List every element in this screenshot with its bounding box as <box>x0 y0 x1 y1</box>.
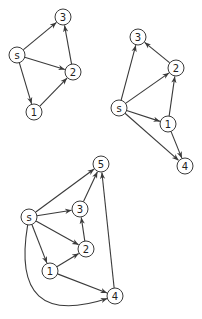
edge-4-to-5 <box>102 172 114 288</box>
edge-s-to-2 <box>126 73 169 104</box>
edge-1-to-2 <box>169 76 175 116</box>
node-label: 1 <box>31 107 37 118</box>
node-3: 3 <box>55 9 71 25</box>
nodes-layer: s32132s145s3214 <box>9 9 193 304</box>
node-3: 3 <box>130 29 146 45</box>
node-label: 1 <box>47 266 53 277</box>
node-label: s <box>116 103 121 114</box>
node-label: 2 <box>83 244 89 255</box>
node-label: s <box>14 50 19 61</box>
node-label: 4 <box>182 161 188 172</box>
node-5: 5 <box>93 156 109 172</box>
node-1: 1 <box>26 104 42 120</box>
edge-2-to-3 <box>65 25 72 64</box>
node-2: 2 <box>65 64 81 80</box>
edge-s-to-1 <box>19 63 31 104</box>
node-2: 2 <box>78 241 94 257</box>
node-4: 4 <box>107 288 123 304</box>
node-label: 3 <box>135 32 141 43</box>
edge-3-to-5 <box>83 172 97 202</box>
graph-1-edges <box>19 22 71 106</box>
edge-2-to-3 <box>145 42 170 63</box>
edge-s-to-3 <box>37 210 72 215</box>
node-label: 2 <box>70 67 76 78</box>
directed-graphs-diagram: s32132s145s3214 <box>0 0 202 319</box>
node-label: 3 <box>77 204 83 215</box>
node-1: 1 <box>160 116 176 132</box>
edge-1-to-4 <box>57 274 107 293</box>
graph-2-nodes: 32s14 <box>111 29 193 174</box>
edge-s-to-3 <box>23 22 56 49</box>
node-label: s <box>26 212 31 223</box>
node-label: 2 <box>173 63 179 74</box>
node-3: 3 <box>72 201 88 217</box>
node-label: 4 <box>112 291 118 302</box>
node-2: 2 <box>168 60 184 76</box>
edge-1-to-4 <box>171 131 182 158</box>
node-s: s <box>9 47 25 63</box>
edge-s-to-1 <box>32 224 47 263</box>
edge-s-to-3 <box>121 45 136 100</box>
edge-1-to-2 <box>40 78 67 106</box>
node-1: 1 <box>42 263 58 279</box>
node-s: s <box>111 100 127 116</box>
edge-s-to-2 <box>36 221 79 245</box>
diagram-canvas: s32132s145s3214 <box>0 0 202 319</box>
graph-3-edges <box>25 169 114 306</box>
edge-2-to-3 <box>81 217 85 241</box>
edge-s-to-2 <box>25 57 65 69</box>
node-4: 4 <box>177 158 193 174</box>
node-label: 3 <box>60 12 66 23</box>
node-label: 5 <box>98 159 104 170</box>
edge-1-to-2 <box>57 253 79 266</box>
node-s: s <box>21 209 37 225</box>
node-label: 1 <box>165 119 171 130</box>
graph-2-edges <box>121 42 182 160</box>
